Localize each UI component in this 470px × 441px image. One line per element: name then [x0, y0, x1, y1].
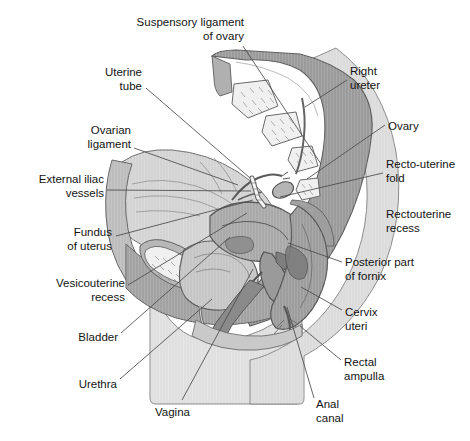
label-rectouterine-recess: Rectouterinerecess — [386, 208, 451, 235]
label-suspensory-ligament-of-ovary: Suspensory ligamentof ovary — [137, 16, 244, 43]
label-line: Fundus — [67, 226, 112, 240]
label-line: Urethra — [79, 378, 117, 392]
label-vagina: Vagina — [155, 406, 190, 420]
label-line: Vesicouterine — [56, 277, 125, 291]
label-line: Recto-uterine — [386, 158, 455, 172]
label-line: Rectal — [344, 356, 384, 370]
label-line: recess — [386, 222, 451, 236]
label-recto-uterine-fold: Recto-uterinefold — [386, 158, 455, 185]
label-uterine-tube: Uterinetube — [105, 66, 142, 93]
label-line: recess — [56, 291, 125, 305]
label-line: of fornix — [345, 270, 414, 284]
label-line: of ovary — [137, 30, 244, 44]
anatomical-figure: Suspensory ligamentof ovaryUterinetubeOv… — [0, 0, 470, 441]
label-ovarian-ligament: Ovarianligament — [88, 124, 131, 151]
label-cervix-uteri: Cervixuteri — [345, 306, 378, 333]
label-anal-canal: Analcanal — [316, 398, 344, 425]
label-line: Vagina — [155, 406, 190, 420]
label-line: Anal — [316, 398, 344, 412]
label-line: fold — [386, 172, 455, 186]
label-line: External iliac — [39, 173, 104, 187]
label-vesicouterine-recess: Vesicouterinerecess — [56, 277, 125, 304]
label-urethra: Urethra — [79, 378, 117, 392]
label-line: uteri — [345, 320, 378, 334]
label-line: vessels — [39, 187, 104, 201]
label-bladder: Bladder — [78, 331, 118, 345]
label-right-ureter: Rightureter — [350, 65, 380, 92]
label-posterior-part-of-fornix: Posterior partof fornix — [345, 256, 414, 283]
label-line: Posterior part — [345, 256, 414, 270]
label-fundus-of-uterus: Fundusof uterus — [67, 226, 112, 253]
label-line: Right — [350, 65, 380, 79]
label-line: of uterus — [67, 240, 112, 254]
label-line: Rectouterine — [386, 208, 451, 222]
label-line: tube — [105, 80, 142, 94]
label-ovary: Ovary — [388, 120, 419, 134]
label-line: Suspensory ligament — [137, 16, 244, 30]
label-line: ureter — [350, 79, 380, 93]
label-line: Cervix — [345, 306, 378, 320]
label-rectal-ampulla: Rectalampulla — [344, 356, 384, 383]
label-external-iliac-vessels: External iliacvessels — [39, 173, 104, 200]
label-line: ampulla — [344, 370, 384, 384]
label-line: Bladder — [78, 331, 118, 345]
label-line: Uterine — [105, 66, 142, 80]
label-line: canal — [316, 412, 344, 426]
label-line: Ovary — [388, 120, 419, 134]
label-line: Ovarian — [88, 124, 131, 138]
label-line: ligament — [88, 138, 131, 152]
vesicouterine-recess — [226, 236, 254, 253]
